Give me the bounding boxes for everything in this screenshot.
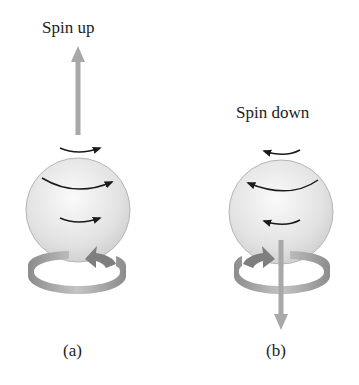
panel-b [229, 150, 333, 330]
panel-a [26, 46, 130, 294]
rotation-arrow-icon [60, 148, 100, 152]
electron-sphere-a [26, 158, 130, 262]
panel-a-title: Spin up [42, 18, 94, 38]
rotation-arrow-icon [264, 150, 300, 154]
panel-a-caption: (a) [63, 341, 82, 361]
panel-b-caption: (b) [266, 341, 286, 361]
panel-b-title: Spin down [236, 103, 309, 123]
spin-diagram [0, 0, 359, 385]
spin-up-arrow-icon [71, 46, 85, 135]
